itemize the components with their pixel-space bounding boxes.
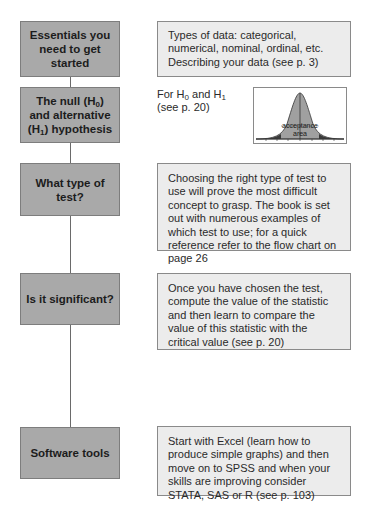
description-text: Choosing the right type of test to use w… xyxy=(168,172,336,264)
description-text: Start with Excel (learn how to produce s… xyxy=(168,435,330,501)
step-label: What type of test? xyxy=(25,176,115,204)
acceptance-label: acceptance xyxy=(254,122,346,129)
step-box-software: Software tools xyxy=(20,427,120,479)
description-text: Once you have chosen the test, compute t… xyxy=(168,282,328,348)
step-label: Software tools xyxy=(30,446,109,460)
description-text: Types of data: categorical, numerical, n… xyxy=(168,29,340,69)
area-label: area xyxy=(254,130,346,137)
description-box-software: Start with Excel (learn how to produce s… xyxy=(157,426,351,496)
step-box-hypothesis: The null (H0) and alternative (H1) hypot… xyxy=(20,87,120,143)
note-reference: (see p. 20) xyxy=(157,101,226,114)
step-box-test-type: What type of test? xyxy=(20,163,120,216)
note-line: For H0 and H1 xyxy=(157,88,226,101)
step-label: Essentials you need to get started xyxy=(25,28,115,70)
description-box-essentials: Types of data: categorical, numerical, n… xyxy=(157,21,351,77)
normal-curve-figure: acceptance area xyxy=(253,87,347,144)
step-label: Is it significant? xyxy=(26,292,114,306)
step-box-significance: Is it significant? xyxy=(20,273,120,325)
step-box-essentials: Essentials you need to get started xyxy=(20,21,120,77)
hypothesis-note: For H0 and H1 (see p. 20) xyxy=(157,88,226,114)
description-box-significance: Once you have chosen the test, compute t… xyxy=(157,273,351,350)
step-label: The null (H0) and alternative (H1) hypot… xyxy=(25,94,115,136)
description-box-test-type: Choosing the right type of test to use w… xyxy=(157,163,351,251)
